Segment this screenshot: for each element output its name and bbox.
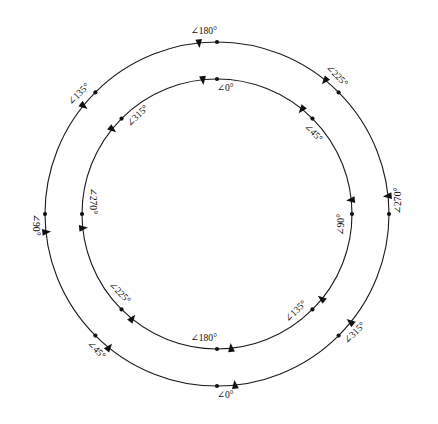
tick-dot (80, 212, 84, 216)
inner-circle-marker-0: ∠0° (199, 76, 234, 93)
inner-circle-marker-225: ∠225° (107, 279, 138, 324)
outer-circle-marker-270: ∠270° (383, 188, 404, 217)
tick-dot (215, 77, 219, 81)
inner-circle-marker-90: ∠90° (335, 196, 355, 235)
tick-dot (215, 347, 219, 351)
diagram-canvas: ∠180°∠225°∠270°∠315°∠0°∠45°∠90°∠135° ∠0°… (0, 0, 438, 424)
tick-dot (119, 307, 123, 311)
angle-label-225: ∠225° (324, 62, 350, 88)
outer-circle-marker-45: ∠45° (85, 334, 114, 361)
outer-circle-marker-180: ∠180° (191, 25, 219, 48)
tick-dot (93, 90, 97, 94)
tick-dot (43, 212, 47, 216)
angle-label-315: ∠315° (124, 102, 150, 128)
tick-dot (310, 116, 314, 120)
outer-circle-marker-90: ∠90° (31, 212, 52, 236)
outer-circle-marker-225: ∠225° (319, 62, 350, 95)
tick-dot (337, 90, 341, 94)
tick-dot (93, 334, 97, 338)
tick-dot (350, 212, 354, 216)
angle-diagram: ∠180°∠225°∠270°∠315°∠0°∠45°∠90°∠135° ∠0°… (0, 0, 438, 424)
tick-dot (387, 212, 391, 216)
outer-circle-marker-315: ∠315° (337, 316, 368, 345)
inner-circle-group: ∠0°∠45°∠90°∠135°∠180°∠225°∠270°∠315° (79, 76, 355, 352)
outer-circle-marker-0: ∠0° (215, 380, 239, 401)
tick-dot (310, 307, 314, 311)
tick-dot (215, 40, 219, 44)
tick-dot (337, 334, 341, 338)
angle-label-90: ∠90° (335, 214, 346, 236)
outer-circle-marker-135: ∠135° (65, 80, 98, 111)
angle-label-135: ∠135° (282, 297, 308, 323)
angle-label-45: ∠45° (85, 338, 108, 361)
inner-circle-marker-315: ∠315° (107, 102, 150, 135)
angle-label-90: ∠90° (31, 214, 42, 236)
angle-label-0: ∠0° (217, 82, 234, 93)
angle-label-180: ∠180° (191, 25, 217, 36)
tick-dot (215, 384, 219, 388)
angle-label-135: ∠135° (65, 80, 91, 106)
tick-dot (119, 116, 123, 120)
angle-label-0: ∠0° (217, 389, 234, 400)
angle-label-270: ∠270° (88, 188, 99, 214)
angle-label-180: ∠180° (191, 332, 217, 343)
angle-label-225: ∠225° (107, 279, 133, 305)
angle-label-45: ∠45° (302, 121, 325, 144)
inner-circle-marker-135: ∠135° (282, 293, 327, 324)
angle-label-270: ∠270° (392, 188, 403, 214)
inner-circle-marker-45: ∠45° (296, 104, 325, 144)
